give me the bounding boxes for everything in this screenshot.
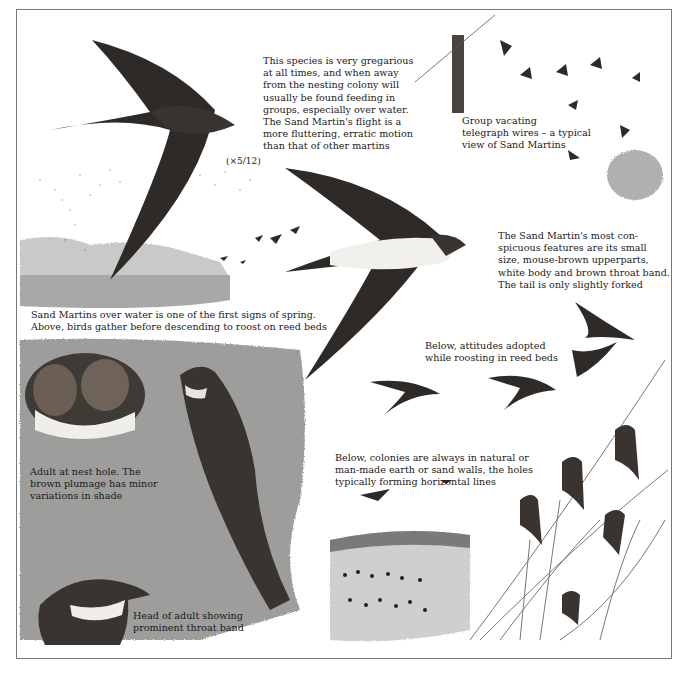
roosting-birds — [520, 425, 639, 625]
caption-head: Head of adult showing prominent throat b… — [133, 610, 244, 634]
sand-bank — [330, 531, 470, 641]
scale-label: (×5/12) — [226, 155, 261, 167]
shrub — [607, 150, 663, 200]
caption-gregarious: This species is very gregarious at all t… — [263, 55, 413, 153]
caption-features: The Sand Martin's most con- spicuous fea… — [498, 230, 670, 291]
telegraph-pole — [415, 15, 495, 113]
caption-nest-hole: Adult at nest hole. The brown plumage ha… — [30, 466, 158, 503]
caption-over-water: Sand Martins over water is one of the fi… — [31, 309, 327, 333]
caption-roosting: Below, attitudes adopted while roosting … — [425, 340, 558, 364]
caption-telegraph: Group vacating telegraph wires – a typic… — [462, 115, 591, 152]
caption-colonies: Below, colonies are always in natural or… — [335, 452, 533, 489]
